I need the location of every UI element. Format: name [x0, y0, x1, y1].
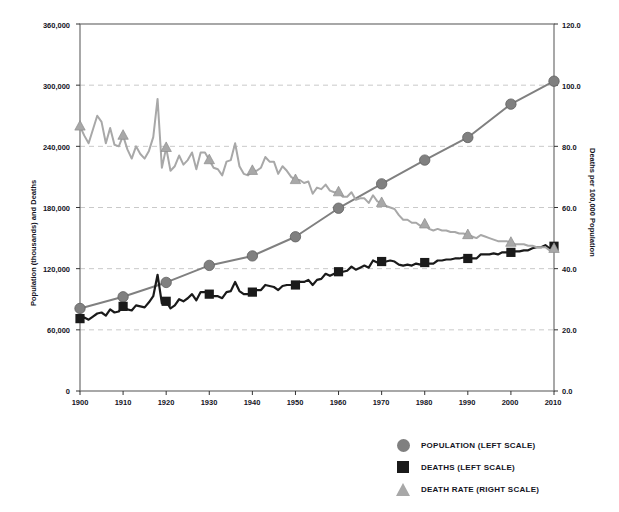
y2-tick-6: 120.0 [562, 21, 602, 30]
data-point-marker[interactable] [506, 248, 515, 257]
y-tick-4: 240,000 [12, 143, 70, 152]
data-point-marker[interactable] [162, 297, 171, 306]
x-tick-2000: 2000 [490, 398, 530, 407]
x-tick-1910: 1910 [103, 398, 143, 407]
x-tick-1900: 1900 [60, 398, 100, 407]
data-point-marker[interactable] [248, 288, 257, 297]
data-point-marker[interactable] [291, 280, 300, 289]
y2-tick-0: 0.0 [562, 387, 602, 396]
deaths-square-icon [395, 459, 411, 475]
y2-tick-2: 40.0 [562, 265, 602, 274]
data-point-marker[interactable] [290, 232, 300, 242]
chart-root: 0 60,000 120,000 180,000 240,000 300,000… [0, 0, 619, 512]
data-point-marker[interactable] [247, 251, 257, 261]
series-line-circle [80, 81, 554, 308]
y-axis-label: Population (thousands) and Deaths [29, 180, 38, 306]
x-tick-1930: 1930 [189, 398, 229, 407]
data-point-marker[interactable] [205, 290, 214, 299]
data-point-marker[interactable] [75, 303, 85, 313]
death-rate-triangle-icon [395, 481, 411, 497]
data-point-marker[interactable] [377, 257, 386, 266]
data-point-marker[interactable] [161, 277, 171, 287]
data-point-marker[interactable] [420, 258, 429, 267]
data-point-marker[interactable] [463, 132, 473, 142]
data-point-marker[interactable] [506, 99, 516, 109]
legend-label-deaths: DEATHS (LEFT SCALE) [421, 463, 515, 472]
data-point-marker[interactable] [333, 186, 343, 196]
data-point-marker[interactable] [376, 179, 386, 189]
x-tick-1920: 1920 [146, 398, 186, 407]
series-line-triangle [80, 99, 554, 250]
x-tick-1990: 1990 [447, 398, 487, 407]
population-circle-icon [395, 437, 411, 453]
y-tick-0: 0 [12, 387, 70, 396]
y-tick-6: 360,000 [12, 21, 70, 30]
y-tick-2: 120,000 [12, 265, 70, 274]
data-point-marker[interactable] [204, 260, 214, 270]
legend-label-population: POPULATION (LEFT SCALE) [421, 441, 535, 450]
x-tick-1980: 1980 [404, 398, 444, 407]
data-point-marker[interactable] [247, 165, 257, 175]
chart-legend: POPULATION (LEFT SCALE) DEATHS (LEFT SCA… [395, 434, 539, 500]
data-point-marker[interactable] [118, 292, 128, 302]
y2-tick-1: 20.0 [562, 326, 602, 335]
y2-tick-5: 100.0 [562, 82, 602, 91]
data-point-marker[interactable] [463, 254, 472, 263]
series-line-square [80, 245, 554, 319]
data-point-marker[interactable] [118, 130, 128, 140]
x-tick-1940: 1940 [232, 398, 272, 407]
x-tick-1950: 1950 [275, 398, 315, 407]
y-tick-1: 60,000 [12, 326, 70, 335]
x-tick-1960: 1960 [318, 398, 358, 407]
data-point-marker[interactable] [290, 174, 300, 184]
legend-item-deaths[interactable]: DEATHS (LEFT SCALE) [395, 456, 539, 478]
data-point-marker[interactable] [118, 302, 127, 311]
data-point-marker[interactable] [549, 76, 559, 86]
legend-item-death-rate[interactable]: DEATH RATE (RIGHT SCALE) [395, 478, 539, 500]
data-point-marker[interactable] [333, 203, 343, 213]
legend-item-population[interactable]: POPULATION (LEFT SCALE) [395, 434, 539, 456]
data-point-marker[interactable] [334, 267, 343, 276]
x-tick-2010: 2010 [533, 398, 573, 407]
x-tick-1970: 1970 [361, 398, 401, 407]
y2-axis-label: Deaths per 100,000 Population [588, 148, 597, 257]
data-point-marker[interactable] [75, 314, 84, 323]
y-tick-5: 300,000 [12, 82, 70, 91]
data-point-marker[interactable] [420, 155, 430, 165]
y-tick-3: 180,000 [12, 204, 70, 213]
data-point-marker[interactable] [420, 218, 430, 228]
data-point-marker[interactable] [75, 121, 85, 131]
legend-label-death-rate: DEATH RATE (RIGHT SCALE) [421, 485, 539, 494]
